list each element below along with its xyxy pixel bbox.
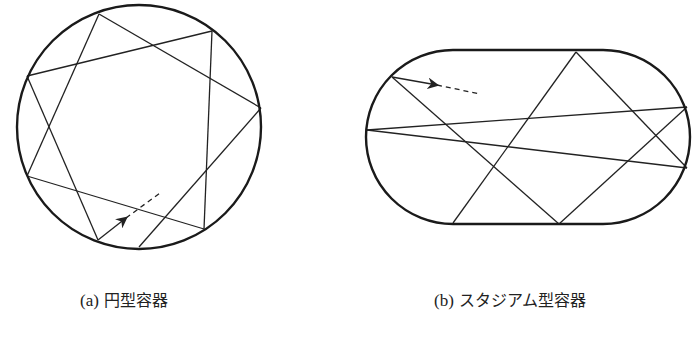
trajectory-segment bbox=[27, 14, 99, 176]
caption-label-a: (a) bbox=[80, 291, 99, 310]
stadium-boundary bbox=[366, 50, 690, 224]
trajectory-segment bbox=[576, 52, 687, 168]
trajectory-segment bbox=[367, 130, 687, 168]
trajectory-segment bbox=[453, 52, 576, 223]
circular-container-diagram bbox=[17, 5, 261, 249]
caption-stadium-container: (b) スタジアム型容器 bbox=[434, 287, 586, 311]
trajectory-segment bbox=[139, 108, 261, 247]
dashed-extension bbox=[437, 85, 480, 94]
caption-circular-container: (a) 円型容器 bbox=[80, 287, 168, 311]
caption-text-a: 円型容器 bbox=[104, 291, 168, 310]
trajectory-segment bbox=[392, 77, 559, 224]
caption-label-b: (b) bbox=[434, 291, 454, 310]
trajectory-segment bbox=[204, 31, 212, 229]
caption-text-b: スタジアム型容器 bbox=[459, 291, 586, 310]
initial-direction-arrow bbox=[98, 218, 126, 240]
trajectory-segment bbox=[27, 76, 98, 240]
circle-boundary bbox=[17, 5, 261, 249]
stadium-container-diagram bbox=[366, 50, 690, 224]
trajectory-segment bbox=[99, 14, 261, 108]
